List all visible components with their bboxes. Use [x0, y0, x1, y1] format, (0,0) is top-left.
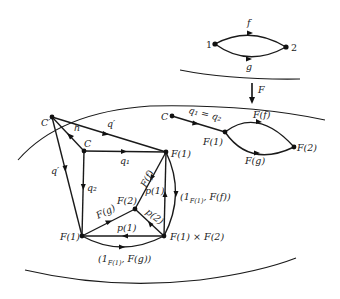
- node-F1: [223, 130, 228, 135]
- node-F2: [292, 145, 297, 150]
- node-C: [170, 114, 175, 119]
- bottom-category-boundary: [25, 258, 296, 283]
- node-F2-label: F(2): [296, 142, 317, 153]
- node-product: [162, 234, 167, 239]
- edge-q1-label: q₁: [120, 155, 130, 166]
- pair-f-rest: , F(f)): [203, 191, 231, 202]
- edge-pair-g: [82, 236, 164, 247]
- node-C-label: C: [161, 111, 169, 122]
- edge-q-prime-left-label: q′: [51, 165, 60, 176]
- edge-Ff-label: F(f): [252, 109, 271, 120]
- pair-f-subscript: F(1): [189, 197, 204, 205]
- node-C-left-label: C: [84, 138, 92, 149]
- arrowhead-p1-left: [122, 234, 128, 239]
- node-F1-top-label: F(1): [170, 148, 191, 159]
- node-C-left: [82, 149, 87, 154]
- edge-f: [215, 35, 286, 47]
- arrowhead-pair-g: [119, 245, 125, 250]
- node-F1-label: F(1): [202, 136, 223, 147]
- functor-arrow: F: [249, 83, 265, 104]
- edge-h-label: h: [74, 122, 80, 133]
- edge-g-label: g: [246, 61, 252, 72]
- pair-f-open: (1: [180, 191, 190, 202]
- edge-pair-f-label: (1F(1), F(f)): [180, 191, 231, 205]
- arrowhead-q1: [121, 149, 127, 154]
- node-product-label: F(1) × F(2): [169, 231, 224, 242]
- top-category-boundary: [180, 70, 300, 79]
- edge-q-prime-left: [52, 117, 82, 236]
- edge-Fg-label: F(g): [244, 155, 265, 166]
- node-C-prime-label: C′: [41, 117, 51, 128]
- functor-limit-diagram: 1 2 f g F C F(1) F(2) q₁ = q₂ F(f) F(g): [0, 0, 340, 299]
- pair-g-subscript: F(1): [107, 259, 122, 267]
- functor-label: F: [257, 84, 265, 95]
- arrowhead-pair-f: [174, 191, 179, 197]
- edge-Fg-left-label: F(g): [93, 202, 117, 221]
- edge-p2-label: p(2): [144, 206, 166, 227]
- arrowhead-q2: [81, 184, 86, 190]
- edge-Fg: [225, 132, 294, 155]
- arrowhead-p2: [148, 221, 154, 228]
- node-F1-top: [164, 150, 169, 155]
- top-category: 1 2 f g: [206, 17, 297, 72]
- functor-arrowhead: [249, 97, 255, 104]
- edge-q2-label: q₂: [87, 182, 97, 193]
- edge-q2: [82, 151, 84, 236]
- node-F1-bottom: [80, 234, 85, 239]
- node-1: [212, 41, 217, 46]
- edge-pair-g-label: (1F(1), F(g)): [98, 253, 152, 267]
- pair-g-rest: , F(g)): [121, 253, 151, 264]
- edge-g: [215, 44, 286, 57]
- node-F2-left: [133, 207, 138, 212]
- cone-arrowhead: [192, 121, 199, 126]
- node-1-label: 1: [206, 39, 212, 50]
- pair-g-open: (1: [98, 253, 108, 264]
- node-F2-left-label: F(2): [116, 195, 137, 206]
- node-F1-bottom-label: F(1): [59, 231, 80, 242]
- node-2: [283, 44, 288, 49]
- edge-p1-up-label: p(1): [145, 185, 165, 196]
- node-2-label: 2: [291, 42, 297, 53]
- edge-f-label: f: [246, 17, 252, 28]
- edge-p1-left-label: p(1): [117, 222, 137, 233]
- arrowhead-q-prime-left: [63, 165, 68, 172]
- edge-q-prime-top-label: q′: [107, 118, 116, 129]
